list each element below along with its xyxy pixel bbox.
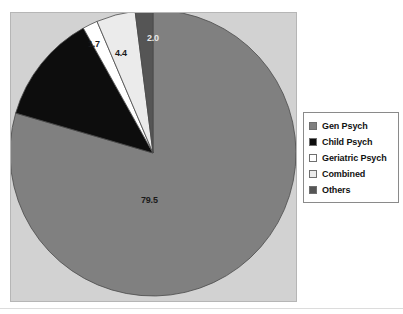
plot-area: 79.5 1.7 4.4 2.0 (10, 12, 297, 302)
legend-item[interactable]: Combined (309, 166, 394, 181)
slice-label-geriatric-psych: 1.7 (88, 39, 100, 49)
legend-item-label: Child Psych (322, 137, 372, 147)
pie-chart-figure: 79.5 1.7 4.4 2.0 Gen PsychChild PsychGer… (0, 0, 403, 314)
legend-item[interactable]: Child Psych (309, 134, 394, 149)
legend-item[interactable]: Others (309, 182, 394, 197)
slice-label-combined: 4.4 (115, 48, 127, 58)
legend-item[interactable]: Geriatric Psych (309, 150, 394, 165)
pie-slices-group (11, 13, 296, 296)
chart-legend: Gen PsychChild PsychGeriatric PsychCombi… (303, 112, 399, 203)
legend-swatch-icon (309, 186, 317, 194)
legend-swatch-icon (309, 170, 317, 178)
legend-swatch-icon (309, 122, 317, 130)
slice-label-gen-psych: 79.5 (141, 195, 158, 205)
legend-swatch-icon (309, 138, 317, 146)
legend-item-label: Gen Psych (322, 121, 368, 131)
bottom-divider (0, 308, 403, 309)
pie-container: 79.5 1.7 4.4 2.0 (11, 13, 296, 301)
legend-item-label: Geriatric Psych (322, 153, 387, 163)
legend-item-label: Combined (322, 169, 365, 179)
legend-item[interactable]: Gen Psych (309, 118, 394, 133)
slice-label-others: 2.0 (147, 33, 159, 43)
legend-swatch-icon (309, 154, 317, 162)
legend-item-label: Others (322, 185, 350, 195)
pie-svg (11, 13, 297, 302)
